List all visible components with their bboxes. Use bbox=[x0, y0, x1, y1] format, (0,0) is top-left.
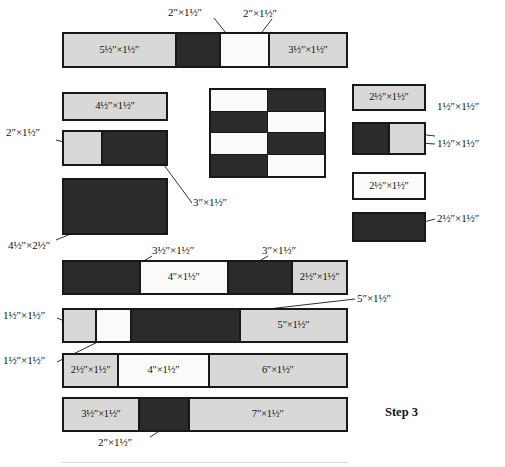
strip-segment: 6″×1½″ bbox=[208, 355, 346, 386]
callout-one-half-square-b: 1½″×1½″ bbox=[3, 355, 45, 366]
strip-segment: 3½″×1½″ bbox=[64, 399, 138, 430]
callout-two-by-one-half-bottom: 2″×1½″ bbox=[98, 437, 132, 448]
callout-three-half-by-one-half: 3½″×1½″ bbox=[152, 245, 194, 256]
segment-label: 7″×1½″ bbox=[252, 409, 284, 420]
strip-segment: 4″×1½″ bbox=[117, 355, 207, 386]
segment-label: 4″×1½″ bbox=[148, 365, 180, 376]
segment-label: 5″×1½″ bbox=[278, 320, 310, 331]
strip-row-4: 3½″×1½″7″×1½″ bbox=[62, 397, 348, 432]
strip-segment: 2½″×1½″ bbox=[291, 262, 346, 293]
segment-label: 5½″×1½″ bbox=[100, 45, 140, 56]
checkerboard-cell bbox=[268, 155, 325, 177]
patch-four-half-by-two-half bbox=[62, 178, 168, 235]
patch-right-white-two-half: 2½″×1½″ bbox=[352, 172, 426, 200]
strip-segment bbox=[64, 310, 95, 341]
callout-three-by-one-half: 3″×1½″ bbox=[193, 197, 227, 208]
checkerboard-cell bbox=[268, 112, 325, 134]
strip-segment bbox=[101, 132, 166, 164]
callout-three-by-one-half-b: 3″×1½″ bbox=[262, 245, 296, 256]
checkerboard-cell bbox=[211, 90, 268, 112]
segment-label: 3½″×1½″ bbox=[81, 409, 121, 420]
strip-segment: 3½″×1½″ bbox=[268, 34, 346, 66]
patch-label: 2½″×1½″ bbox=[369, 181, 409, 192]
segment-label: 2½″×1½″ bbox=[300, 272, 340, 283]
strip-segment bbox=[130, 310, 239, 341]
segment-label: 6″×1½″ bbox=[262, 365, 294, 376]
callout-top-left: 2″×1½″ bbox=[168, 7, 202, 18]
strip-segment bbox=[175, 34, 219, 66]
segment-label: 4″×1½″ bbox=[168, 272, 200, 283]
strip-segment: 2½″×1½″ bbox=[64, 355, 117, 386]
checkerboard-cell bbox=[211, 155, 268, 177]
patch-label: 4½″×1½″ bbox=[95, 101, 135, 112]
checkerboard-cell bbox=[268, 133, 325, 155]
strip-segment bbox=[227, 262, 292, 293]
strip-row-3: 2½″×1½″4″×1½″6″×1½″ bbox=[62, 353, 348, 388]
callout-right-square-b: 1½″×1½″ bbox=[437, 138, 479, 149]
strip-segment: 5″×1½″ bbox=[239, 310, 346, 341]
strip-segment bbox=[95, 310, 130, 341]
cropped-strip-bottom bbox=[62, 462, 348, 467]
strip-row-2: 5″×1½″ bbox=[62, 308, 348, 343]
strip-right-two-squares bbox=[352, 122, 426, 155]
strip-segment bbox=[388, 124, 424, 153]
checkerboard-cell bbox=[211, 133, 268, 155]
checkerboard-block bbox=[209, 88, 326, 178]
strip-segment bbox=[354, 124, 388, 153]
segment-label: 2½″×1½″ bbox=[71, 365, 111, 376]
checkerboard-cell bbox=[211, 112, 268, 134]
strip-segment bbox=[64, 262, 139, 293]
strip-segment: 5½″×1½″ bbox=[64, 34, 175, 66]
patch-right-gray-two-half: 2½″×1½″ bbox=[352, 84, 426, 111]
checkerboard-cell bbox=[268, 90, 325, 112]
callout-five-by-one-half: 5″×1½″ bbox=[357, 293, 391, 304]
strip-segment: 4″×1½″ bbox=[139, 262, 227, 293]
callout-one-half-square-a: 1½″×1½″ bbox=[3, 310, 45, 321]
patch-label: 2½″×1½″ bbox=[369, 92, 409, 103]
quilt-piecing-diagram: 2″×1½″ 2″×1½″ 2″×1½″ 3″×1½″ 4½″×2½″ 3½″×… bbox=[0, 0, 505, 467]
strip-segment bbox=[138, 399, 188, 430]
callout-two-by-one-half-left: 2″×1½″ bbox=[6, 127, 40, 138]
patch-right-dark-two-half bbox=[352, 212, 426, 242]
strip-row-1: 4″×1½″2½″×1½″ bbox=[62, 260, 348, 295]
segment-label: 3½″×1½″ bbox=[288, 45, 328, 56]
callout-four-half-by-two-half: 4½″×2½″ bbox=[8, 240, 50, 251]
callout-top-right: 2″×1½″ bbox=[243, 8, 277, 19]
patch-four-half-by-one-half: 4½″×1½″ bbox=[62, 92, 168, 121]
callout-right-square-a: 1½″×1½″ bbox=[437, 101, 479, 112]
strip-segment bbox=[64, 132, 101, 164]
strip-segment bbox=[219, 34, 268, 66]
strip-two-and-three bbox=[62, 130, 168, 166]
strip-segment: 7″×1½″ bbox=[188, 399, 346, 430]
step-label: Step 3 bbox=[385, 405, 418, 420]
callout-right-dark-rect: 2½″×1½″ bbox=[437, 213, 479, 224]
strip-top: 5½″×1½″3½″×1½″ bbox=[62, 32, 348, 68]
